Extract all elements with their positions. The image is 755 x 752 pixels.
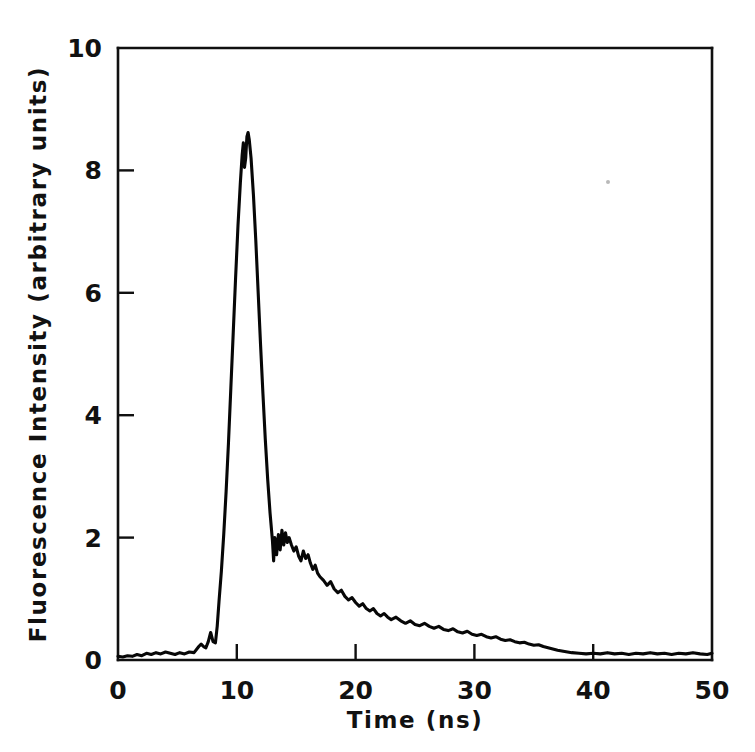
x-tick-label-20: 20 [338, 676, 373, 705]
x-axis-title: Time (ns) [347, 707, 484, 733]
x-tick-label-10: 10 [219, 676, 254, 705]
fluorescence-decay-chart: 0246810 01020304050 Time (ns) Fluorescen… [0, 0, 755, 752]
x-tick-label-0: 0 [109, 676, 126, 705]
figure-canvas: 0246810 01020304050 Time (ns) Fluorescen… [0, 0, 755, 752]
y-tick-label-8: 8 [85, 156, 102, 185]
y-tick-label-0: 0 [85, 646, 102, 675]
y-axis-tick-labels: 0246810 [67, 34, 102, 675]
axes-frame [118, 48, 712, 660]
x-tick-label-50: 50 [695, 676, 730, 705]
scan-artifact-speck [606, 180, 610, 184]
y-tick-label-2: 2 [85, 524, 102, 553]
y-tick-label-4: 4 [85, 401, 102, 430]
y-axis-ticks [118, 170, 134, 537]
y-tick-label-10: 10 [67, 34, 102, 63]
x-tick-label-30: 30 [457, 676, 492, 705]
fluorescence-decay-curve [118, 132, 712, 656]
x-tick-label-40: 40 [576, 676, 611, 705]
y-tick-label-6: 6 [85, 279, 102, 308]
x-axis-tick-labels: 01020304050 [109, 676, 729, 705]
y-axis-title: Fluorescence Intensity (arbitrary units) [25, 66, 51, 642]
